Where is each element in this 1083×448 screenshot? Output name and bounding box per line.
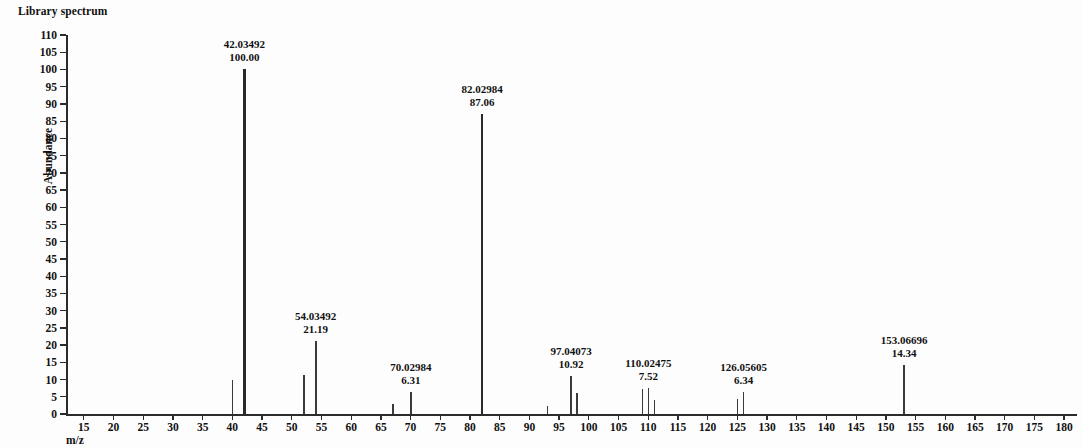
x-axis-tick-label: 105 (610, 421, 627, 433)
y-axis-tick-label: 45 (46, 253, 58, 265)
y-axis-tick-label: 10 (46, 374, 58, 386)
y-axis-tick-label: 70 (46, 167, 58, 179)
y-axis-tick-label: 105 (40, 46, 57, 58)
y-axis-tick-label: 65 (46, 184, 58, 196)
peak-abundance-value: 10.92 (551, 358, 592, 371)
peak-mz-value: 70.02984 (390, 361, 431, 374)
x-axis-tick (232, 414, 233, 420)
y-axis-tick (60, 396, 66, 397)
spectrum-peak (547, 406, 549, 414)
x-axis-tick-label: 30 (167, 421, 179, 433)
y-axis-tick-label: 35 (46, 287, 58, 299)
y-axis-tick (60, 327, 66, 328)
x-axis-tick (529, 414, 530, 420)
x-axis-tick (291, 414, 292, 420)
x-axis-tick-label: 45 (256, 421, 268, 433)
x-axis-tick-label: 135 (788, 421, 805, 433)
x-axis-tick-label: 180 (1055, 421, 1072, 433)
x-axis-tick (707, 414, 708, 420)
x-axis-tick (826, 414, 827, 420)
peak-abundance-value: 100.00 (224, 51, 265, 64)
spectrum-peak (410, 392, 412, 414)
peak-mz-value: 126.05605 (720, 361, 767, 374)
y-axis-tick-label: 60 (46, 201, 58, 213)
y-axis-tick (60, 241, 66, 242)
x-axis-tick (1063, 414, 1064, 420)
y-axis-tick-label: 110 (40, 29, 57, 41)
spectrum-page: Library spectrum Abundance m/z 051015202… (0, 0, 1083, 448)
spectrum-peak (481, 114, 483, 414)
y-axis-tick (60, 310, 66, 311)
spectrum-peak (232, 380, 234, 414)
spectrum-peak (243, 69, 245, 414)
x-axis-tick (440, 414, 441, 420)
peak-abundance-value: 14.34 (881, 347, 928, 360)
spectrum-peak (642, 389, 644, 414)
spectrum-peak (737, 399, 739, 414)
x-axis-tick (915, 414, 916, 420)
x-axis-tick (410, 414, 411, 420)
peak-label: 42.03492100.00 (224, 38, 265, 64)
x-axis-tick (83, 414, 84, 420)
x-axis-title: m/z (66, 434, 84, 446)
x-axis-tick (321, 414, 322, 420)
peak-label: 110.024757.52 (625, 357, 671, 383)
x-axis-tick-label: 110 (640, 421, 657, 433)
spectrum-peak (303, 375, 305, 414)
x-axis-tick (558, 414, 559, 420)
peak-abundance-value: 87.06 (461, 96, 502, 109)
x-axis-tick-label: 65 (375, 421, 387, 433)
spectrum-peak (903, 365, 905, 414)
spectrum-peak (315, 341, 317, 414)
x-axis-tick (796, 414, 797, 420)
x-axis-tick-label: 90 (524, 421, 536, 433)
spectrum-peak (648, 388, 650, 414)
x-axis-tick (380, 414, 381, 420)
peak-label: 70.029846.31 (390, 361, 431, 387)
y-axis-tick-label: 80 (46, 132, 58, 144)
x-axis-tick (1034, 414, 1035, 420)
peak-mz-value: 42.03492 (224, 38, 265, 51)
x-axis-tick (1004, 414, 1005, 420)
peak-mz-value: 110.02475 (625, 357, 671, 370)
x-axis-tick (261, 414, 262, 420)
y-axis-tick (60, 413, 66, 414)
peak-label: 82.0298487.06 (461, 83, 502, 109)
peak-abundance-value: 6.34 (720, 374, 767, 387)
x-axis-tick (499, 414, 500, 420)
x-axis-tick (143, 414, 144, 420)
y-axis-tick-label: 25 (46, 322, 58, 334)
x-axis-tick-label: 15 (78, 421, 90, 433)
y-axis-tick-label: 50 (46, 236, 58, 248)
y-axis-tick (60, 276, 66, 277)
x-axis-tick-label: 130 (758, 421, 775, 433)
x-axis-tick (469, 414, 470, 420)
x-axis-tick-label: 95 (553, 421, 565, 433)
x-axis-tick (677, 414, 678, 420)
y-axis-tick (60, 138, 66, 139)
x-axis-tick (737, 414, 738, 420)
x-axis-tick-label: 40 (227, 421, 239, 433)
x-axis-tick-label: 115 (670, 421, 687, 433)
y-axis-tick (60, 69, 66, 70)
x-axis-tick-label: 80 (464, 421, 476, 433)
x-axis-tick-label: 175 (1026, 421, 1043, 433)
y-axis-tick-label: 100 (40, 63, 57, 75)
x-axis-line (66, 414, 1077, 416)
y-axis-tick (60, 34, 66, 35)
peak-label: 97.0407310.92 (551, 345, 592, 371)
peak-label: 54.0349221.19 (295, 310, 336, 336)
peak-abundance-value: 7.52 (625, 370, 671, 383)
x-axis-tick-label: 50 (286, 421, 298, 433)
x-axis-tick (885, 414, 886, 420)
spectrum-peak (654, 400, 656, 414)
peak-mz-value: 82.02984 (461, 83, 502, 96)
x-axis-tick-label: 165 (966, 421, 983, 433)
x-axis-tick-label: 100 (580, 421, 597, 433)
x-axis-tick-label: 25 (137, 421, 149, 433)
spectrum-peak (743, 392, 745, 414)
x-axis-tick (766, 414, 767, 420)
x-axis-tick-label: 140 (818, 421, 835, 433)
y-axis-tick (60, 52, 66, 53)
peak-mz-value: 97.04073 (551, 345, 592, 358)
